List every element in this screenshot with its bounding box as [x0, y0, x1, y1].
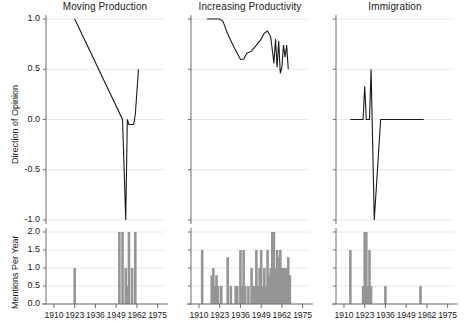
mention-bar-0-6	[131, 268, 134, 304]
mention-bar-0-2	[121, 232, 124, 304]
bottom-yaxis-title: Mentions Per Year	[10, 235, 20, 309]
mention-bar-2-0	[349, 250, 352, 304]
top-ytick-label-4: -1.0	[6, 214, 40, 224]
mention-bar-2-8	[419, 286, 422, 304]
panel-title-2: Immigration	[330, 1, 460, 12]
mention-bar-1-43	[289, 275, 292, 304]
top-ytick-label-0: 1.0	[6, 13, 40, 23]
mention-bar-1-12	[236, 286, 239, 304]
mention-bar-1-8	[226, 257, 229, 304]
chart-svg	[0, 0, 466, 334]
mention-bar-0-7	[134, 232, 137, 304]
top-yaxis-title: Direction of Opinion	[10, 84, 20, 163]
mention-bar-1-9	[230, 286, 233, 304]
top-ytick-label-1: 0.5	[6, 63, 40, 73]
xtick-label-1-5: 1975	[287, 310, 319, 320]
mention-bar-1-5	[217, 286, 220, 304]
opinion-line-1	[207, 19, 288, 73]
panel-title-0: Moving Production	[40, 1, 170, 12]
top-ytick-label-3: -0.5	[6, 164, 40, 174]
xtick-label-0-5: 1975	[142, 310, 174, 320]
xtick-label-2-5: 1975	[432, 310, 464, 320]
mention-bar-2-7	[384, 286, 387, 304]
figure-canvas: Moving Production19101923193619491962197…	[0, 0, 466, 334]
panel-title-1: Increasing Productivity	[185, 1, 315, 12]
mention-bar-1-0	[201, 250, 204, 304]
mention-bar-0-1	[118, 232, 121, 304]
mention-bar-0-5	[128, 232, 131, 304]
mention-bar-1-17	[244, 286, 247, 304]
opinion-line-2	[350, 69, 423, 220]
mention-bar-0-0	[73, 268, 76, 304]
mention-bar-1-18	[247, 286, 250, 304]
mention-bar-1-6	[220, 286, 223, 304]
mention-bar-2-6	[370, 286, 373, 304]
